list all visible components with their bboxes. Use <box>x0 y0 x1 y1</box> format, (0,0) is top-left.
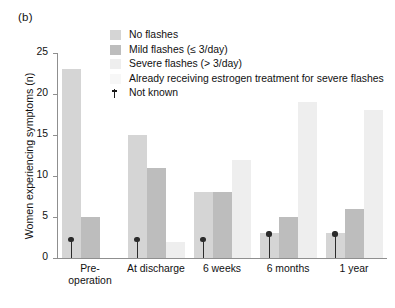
bar <box>62 69 81 258</box>
plot-area: 0510152025 Pre-operationAt discharge6 we… <box>57 53 387 258</box>
x-axis-tick-label-line: 6 months <box>255 263 321 275</box>
bar-group <box>57 53 123 258</box>
x-axis-tick-label-line: Pre- <box>57 263 123 275</box>
bar-group <box>255 53 321 258</box>
bar <box>147 168 166 258</box>
bar <box>345 209 364 258</box>
x-axis-tick-label: Pre-operation <box>57 263 123 288</box>
bar <box>213 192 232 258</box>
bar <box>364 110 383 258</box>
bar-group <box>189 53 255 258</box>
y-axis-tick-label: 0 <box>42 251 48 262</box>
bar <box>81 217 100 258</box>
bar-group <box>123 53 189 258</box>
y-axis-tick-label: 10 <box>36 169 48 180</box>
panel-label: (b) <box>18 11 33 23</box>
x-axis-line <box>57 258 387 259</box>
not-known-marker-icon <box>269 231 270 258</box>
x-axis-tick-label: 6 weeks <box>189 263 255 275</box>
y-axis-tick: 0 <box>53 258 57 259</box>
bar <box>279 217 298 258</box>
y-axis-label: Women experiencing symptoms (n) <box>23 51 35 261</box>
legend-item: No flashes <box>110 28 390 43</box>
y-axis-tick-label: 20 <box>36 87 48 98</box>
x-axis-tick-label: 6 months <box>255 263 321 275</box>
figure-panel-b: (b) No flashesMild flashes (≤ 3/day)Seve… <box>0 0 395 308</box>
x-axis-tick-label-line: 6 weeks <box>189 263 255 275</box>
x-axis-tick-label-line: At discharge <box>123 263 189 275</box>
not-known-marker-icon <box>137 237 138 258</box>
not-known-marker-icon <box>203 237 204 258</box>
x-axis-tick-label-line: 1 year <box>321 263 387 275</box>
x-axis-tick-label-line: operation <box>57 275 123 287</box>
y-axis-tick-label: 15 <box>36 128 48 139</box>
bar-group <box>321 53 387 258</box>
x-axis-tick-label: At discharge <box>123 263 189 275</box>
bar <box>166 242 185 258</box>
y-axis-tick-label: 5 <box>42 210 48 221</box>
legend-item-label: No flashes <box>129 30 178 40</box>
legend-swatch-no-flashes <box>110 30 121 40</box>
x-axis-tick-label: 1 year <box>321 263 387 275</box>
bar <box>298 102 317 258</box>
bar <box>232 160 251 258</box>
not-known-marker-icon <box>71 237 72 258</box>
not-known-marker-icon <box>335 231 336 258</box>
y-axis-tick-label: 25 <box>36 46 48 57</box>
